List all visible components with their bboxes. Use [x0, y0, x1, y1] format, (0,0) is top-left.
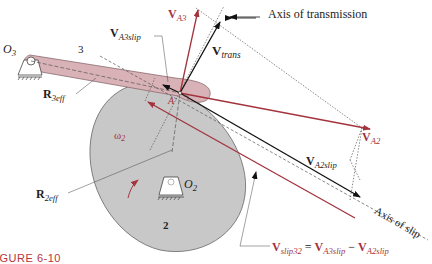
cam-follower-diagram: O3 3 R3eff VA3slip VA3 Vtrans Axis of tr… [0, 0, 432, 264]
label-link-3: 3 [78, 44, 84, 55]
label-O2: O2 [184, 178, 197, 192]
label-omega2: ω2 [114, 130, 125, 143]
figure-caption: IGURE 6-10 [0, 252, 61, 264]
equation-vslip32: Vslip32 = VA3slip − VA2slip [272, 241, 389, 255]
label-axis-of-transmission: Axis of transmission [268, 8, 367, 20]
label-point-A: A [168, 96, 174, 106]
label-O3: O3 [3, 43, 16, 57]
label-VA3: VA3 [168, 8, 186, 22]
label-VA2: VA2 [362, 131, 380, 145]
label-link-2: 2 [163, 220, 169, 231]
label-R3eff: R3eff [43, 88, 65, 102]
pivot-O3 [18, 57, 42, 80]
label-Vtrans: Vtrans [212, 44, 241, 60]
label-R2eff: R2eff [36, 188, 58, 202]
label-VA2slip: VA2slip [306, 155, 337, 169]
label-VA3slip: VA3slip [110, 27, 141, 41]
